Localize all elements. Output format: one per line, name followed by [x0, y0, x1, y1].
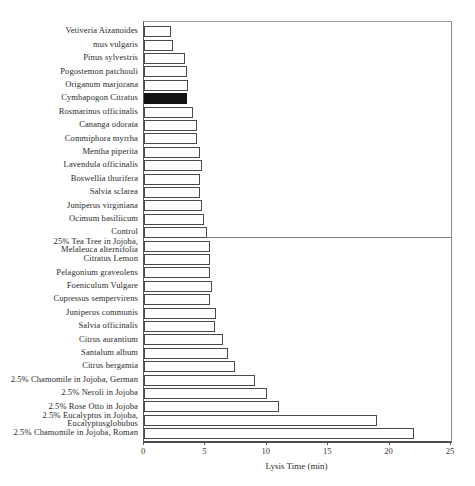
x-tick-label: 5 — [202, 446, 206, 456]
bar — [144, 281, 212, 292]
x-tick-label: 10 — [262, 446, 271, 456]
bar — [144, 133, 197, 144]
x-tick — [389, 442, 390, 445]
control-reference-line — [206, 237, 451, 238]
bar — [144, 227, 207, 238]
bar — [144, 267, 210, 278]
bar — [144, 187, 200, 198]
bar — [144, 321, 215, 332]
bar — [144, 401, 279, 412]
x-tick — [143, 442, 144, 445]
bar — [144, 334, 223, 345]
bar — [144, 361, 235, 372]
category-labels-layer: Vetiveria Aizanoidesmus vulgarisPinus sy… — [0, 0, 140, 486]
bar — [144, 308, 216, 319]
bar — [144, 428, 414, 439]
bar — [144, 174, 200, 185]
x-tick-label: 0 — [141, 446, 145, 456]
plot-area — [143, 21, 452, 443]
bar — [144, 214, 204, 225]
x-tick — [266, 442, 267, 445]
lysis-time-bar-chart: Vetiveria Aizanoidesmus vulgarisPinus sy… — [0, 0, 475, 486]
bar — [144, 80, 188, 91]
category-label: 2.5% Chamomile in Jojoba, Roman — [0, 424, 138, 442]
bar — [144, 107, 193, 118]
x-tick — [450, 442, 451, 445]
bar — [144, 160, 202, 171]
x-tick-label: 20 — [384, 446, 393, 456]
bar — [144, 40, 173, 51]
x-tick — [327, 442, 328, 445]
bar — [144, 53, 185, 64]
highlighted-bar — [144, 93, 187, 104]
bar — [144, 200, 202, 211]
x-tick — [204, 442, 205, 445]
bar — [144, 241, 210, 252]
bar — [144, 120, 197, 131]
x-tick-label: 25 — [446, 446, 455, 456]
bar — [144, 26, 171, 37]
x-axis-title: Lysis Time (min) — [143, 461, 450, 471]
bar — [144, 415, 377, 426]
bar — [144, 348, 228, 359]
bar — [144, 294, 210, 305]
bar — [144, 388, 267, 399]
bar — [144, 375, 255, 386]
bar — [144, 66, 187, 77]
bar — [144, 147, 200, 158]
x-tick-label: 15 — [323, 446, 332, 456]
bar — [144, 254, 210, 265]
